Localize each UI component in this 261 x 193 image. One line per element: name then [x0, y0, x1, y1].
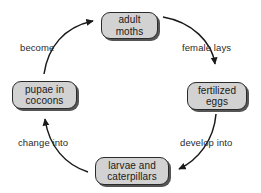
node-pupae-in-cocoons-line1: pupae in: [25, 84, 64, 96]
node-adult-moths-line2: moths: [116, 26, 144, 38]
node-fertilized-eggs-line2: eggs: [206, 96, 228, 108]
edge-label-develop-into: develop into: [180, 137, 232, 148]
node-larvae-and-caterpillars-line1: larvae and: [108, 160, 156, 172]
node-adult-moths-line1: adult: [118, 14, 140, 26]
edge-label-change-into: change into: [18, 137, 68, 148]
node-pupae-in-cocoons-line2: cocoons: [26, 95, 64, 107]
moth-life-cycle-diagram: adult moths fertilized eggs larvae and c…: [0, 0, 261, 193]
node-adult-moths: adult moths: [101, 12, 158, 39]
node-fertilized-eggs: fertilized eggs: [187, 82, 247, 110]
edge-label-female-lays: female lays: [182, 42, 231, 53]
edge-path-female-lays: [163, 17, 215, 64]
node-larvae-and-caterpillars: larvae and caterpillars: [95, 157, 169, 185]
node-fertilized-eggs-line1: fertilized: [198, 85, 236, 97]
node-pupae-in-cocoons: pupae in cocoons: [12, 81, 77, 109]
edge-label-become: become: [20, 42, 54, 53]
node-larvae-and-caterpillars-line2: caterpillars: [107, 171, 157, 183]
